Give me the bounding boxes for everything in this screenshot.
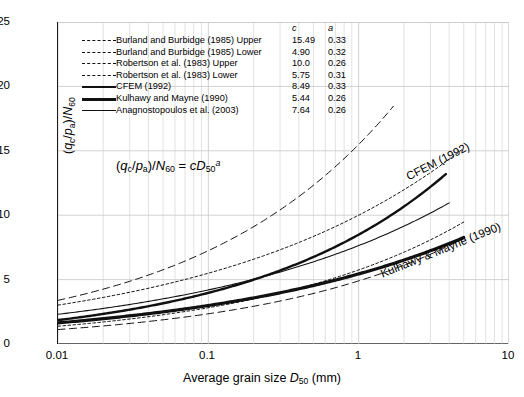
- legend-item-a-value: 0.32: [328, 47, 360, 59]
- legend-item: CFEM (1992)8.490.33: [82, 81, 360, 93]
- legend-item-a-value: 0.26: [328, 58, 360, 70]
- legend-item-c-value: 8.49: [292, 81, 328, 93]
- legend-item: Robertson et al. (1983) Upper10.00.26: [82, 58, 360, 70]
- legend-item-label: Robertson et al. (1983) Lower: [116, 70, 292, 82]
- legend-item-a-value: 0.26: [328, 93, 360, 105]
- legend-swatch-icon: [82, 35, 116, 47]
- legend-item-c-value: 4.90: [292, 47, 328, 59]
- figure-root: 25 20 15 10 5 0 0.01 0.1 1 10 (qc/pa)/N6…: [0, 0, 524, 397]
- legend-item-c-value: 10.0: [292, 58, 328, 70]
- y-tick-20: 20: [0, 80, 10, 92]
- curve-burland-and-burbidge-1985-upper: [58, 106, 393, 300]
- y-tick-10: 10: [0, 209, 10, 221]
- legend-item: Robertson et al. (1983) Lower5.750.31: [82, 70, 360, 82]
- legend-item: Burland and Burbidge (1985) Upper15.490.…: [82, 35, 360, 47]
- legend-item: Anagnostopoulos et al. (2003)7.640.26: [82, 105, 360, 117]
- y-tick-15: 15: [0, 145, 10, 157]
- legend-header-c: c: [292, 23, 297, 35]
- x-axis-label: Average grain size D50 (mm): [0, 371, 524, 386]
- legend-header-a: a: [328, 23, 333, 35]
- x-tick-1: 1: [328, 349, 388, 361]
- legend-item: Kulhawy and Mayne (1990)5.440.26: [82, 93, 360, 105]
- legend-item-a-value: 0.31: [328, 70, 360, 82]
- legend-item-c-value: 15.49: [292, 35, 328, 47]
- legend-item-a-value: 0.33: [328, 35, 360, 47]
- legend-swatch-icon: [82, 105, 116, 117]
- legend-item-label: CFEM (1992): [116, 81, 292, 93]
- legend-item-a-value: 0.33: [328, 81, 360, 93]
- legend-item-label: Robertson et al. (1983) Upper: [116, 58, 292, 70]
- legend-header: c a: [82, 23, 360, 35]
- legend-item-c-value: 5.75: [292, 70, 328, 82]
- x-axis-label-text: Average grain size D50 (mm): [183, 371, 341, 385]
- equation-annotation: (qc/pa)/N60 = cD50a: [116, 158, 220, 174]
- legend-item-label: Burland and Burbidge (1985) Upper: [116, 35, 292, 47]
- legend-rows: Burland and Burbidge (1985) Upper15.490.…: [82, 35, 360, 116]
- y-tick-0: 0: [0, 338, 10, 350]
- legend-item-c-value: 7.64: [292, 105, 328, 117]
- legend-swatch-icon: [82, 47, 116, 59]
- legend-swatch-icon: [82, 81, 116, 93]
- legend-item-c-value: 5.44: [292, 93, 328, 105]
- y-tick-25: 25: [0, 16, 10, 28]
- legend-swatch-icon: [82, 93, 116, 105]
- legend-item-label: Burland and Burbidge (1985) Lower: [116, 47, 292, 59]
- legend-swatch-icon: [82, 58, 116, 70]
- legend-item-label: Kulhawy and Mayne (1990): [116, 93, 292, 105]
- legend-item: Burland and Burbidge (1985) Lower4.900.3…: [82, 47, 360, 59]
- y-tick-5: 5: [0, 274, 10, 286]
- x-tick-10: 10: [478, 349, 524, 361]
- legend: c a Burland and Burbidge (1985) Upper15.…: [82, 23, 360, 116]
- x-tick-0-1: 0.1: [177, 349, 237, 361]
- curve-kulhawy-and-mayne-1990: [58, 238, 464, 323]
- legend-swatch-icon: [82, 70, 116, 82]
- legend-item-label: Anagnostopoulos et al. (2003): [116, 105, 292, 117]
- legend-item-a-value: 0.26: [328, 105, 360, 117]
- x-tick-0-01: 0.01: [27, 349, 87, 361]
